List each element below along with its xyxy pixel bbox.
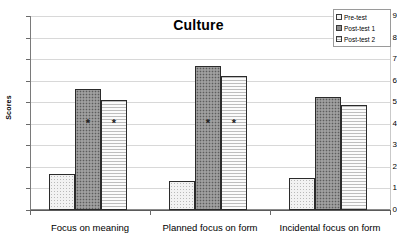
legend-swatch-icon (336, 36, 342, 42)
x-axis-category-label: Incidental focus on form (270, 222, 390, 233)
significance-asterisk: * (196, 118, 220, 129)
bar-post-test-1-2: * (195, 66, 221, 210)
y-tick-mark (26, 145, 30, 146)
y-tick-label: 4 (373, 120, 397, 128)
bar-post-test-1-3 (315, 97, 341, 210)
y-tick-label: 0 (373, 206, 397, 214)
significance-asterisk: * (102, 118, 126, 129)
y-tick-mark (26, 124, 30, 125)
bar-pre-test-2 (169, 181, 195, 210)
y-tick-mark (26, 38, 30, 39)
y-tick-label: 2 (373, 163, 397, 171)
y-tick-label: 6 (373, 77, 397, 85)
y-axis-title: Scores (5, 86, 12, 130)
gridline (31, 59, 390, 60)
y-tick-label: 3 (373, 141, 397, 149)
bar-post-test-2-2: * (221, 76, 247, 210)
legend-item: Post-test 2 (336, 34, 388, 44)
x-axis-separator-tick (150, 210, 151, 215)
x-axis-end-tick (390, 210, 391, 215)
x-axis-category-label: Planned focus on form (150, 222, 270, 233)
significance-asterisk: * (222, 118, 246, 129)
bar-post-test-2-3 (341, 105, 367, 210)
bar-chart: Scores 0123456789 Culture **Focus on mea… (0, 0, 397, 243)
legend-item: Post-test 1 (336, 23, 388, 33)
chart-legend: Pre-testPost-test 1Post-test 2 (333, 9, 391, 47)
legend-item: Pre-test (336, 12, 388, 22)
legend-label: Post-test 1 (344, 25, 375, 32)
y-tick-mark (26, 81, 30, 82)
y-tick-mark (26, 188, 30, 189)
legend-swatch-icon (336, 14, 342, 20)
bar-pre-test-1 (49, 174, 75, 210)
y-tick-mark (26, 167, 30, 168)
legend-label: Post-test 2 (344, 36, 375, 43)
legend-label: Pre-test (344, 14, 367, 21)
y-tick-label: 7 (373, 55, 397, 63)
y-axis-line (30, 16, 31, 211)
x-axis-separator-tick (270, 210, 271, 215)
x-axis-line (30, 210, 391, 211)
y-tick-mark (26, 59, 30, 60)
significance-asterisk: * (76, 118, 100, 129)
bar-post-test-1-1: * (75, 89, 101, 210)
y-tick-label: 1 (373, 184, 397, 192)
x-axis-category-label: Focus on meaning (30, 222, 150, 233)
y-tick-mark (26, 102, 30, 103)
y-tick-label: 5 (373, 98, 397, 106)
legend-swatch-icon (336, 25, 342, 31)
bar-pre-test-3 (289, 178, 315, 210)
x-axis-end-tick (30, 210, 31, 215)
bar-post-test-2-1: * (101, 100, 127, 210)
